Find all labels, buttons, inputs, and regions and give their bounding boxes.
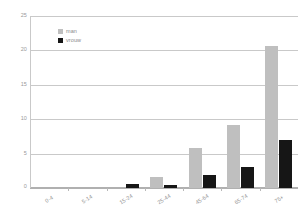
bar-group (260, 16, 298, 188)
bar-group (107, 16, 145, 188)
bar-vrouw (203, 175, 216, 188)
x-label-cell: 0-4 (30, 190, 68, 217)
bar-man (265, 46, 278, 188)
grouped-bar-chart: 25 20 15 10 5 0 (0, 0, 306, 217)
x-axis-line (30, 188, 298, 189)
y-tick-label: 25 (5, 13, 27, 19)
y-tick-label: 10 (5, 116, 27, 122)
x-tick-label: 0-4 (44, 194, 54, 203)
legend-label-vrouw: vrouw (66, 38, 81, 44)
legend-swatch-man-icon (58, 29, 63, 34)
x-label-cell: 25-44 (145, 190, 183, 217)
legend-swatch-vrouw-icon (58, 38, 63, 43)
chart-legend: man vrouw (58, 27, 81, 45)
bar-vrouw (241, 167, 254, 188)
x-tick-label: 25-44 (156, 193, 172, 206)
x-axis-tick-labels: 0-4 5-14 15-24 25-44 45-64 65-74 75+ (30, 190, 298, 217)
bar-man (227, 125, 240, 188)
x-tick-label: 15-24 (118, 193, 134, 206)
bar-vrouw (279, 140, 292, 188)
y-tick-label: 0 (5, 184, 27, 190)
x-tick-label: 5-14 (81, 193, 94, 204)
x-label-cell: 45-64 (183, 190, 221, 217)
x-label-cell: 75+ (260, 190, 298, 217)
y-axis-tick-labels: 25 20 15 10 5 0 (0, 16, 27, 188)
x-tick-label: 65-74 (233, 193, 249, 206)
y-tick-label: 15 (5, 82, 27, 88)
bar-group (183, 16, 221, 188)
x-label-cell: 65-74 (221, 190, 259, 217)
bar-man (189, 148, 202, 188)
x-tick-label: 45-64 (194, 193, 210, 206)
bar-group (145, 16, 183, 188)
legend-item-man: man (58, 27, 81, 36)
bar-man (150, 177, 163, 188)
y-tick-label: 20 (5, 48, 27, 54)
x-label-cell: 5-14 (68, 190, 106, 217)
bar-group (221, 16, 259, 188)
x-tick-label: 75+ (273, 194, 284, 204)
legend-label-man: man (66, 29, 77, 35)
x-label-cell: 15-24 (107, 190, 145, 217)
y-tick-label: 5 (5, 151, 27, 157)
legend-item-vrouw: vrouw (58, 36, 81, 45)
